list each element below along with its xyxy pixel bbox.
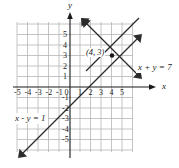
y-tick-neg-4: -4 <box>62 126 69 134</box>
x-tick-3: 3 <box>99 89 103 97</box>
intersection-point-marker <box>110 53 115 58</box>
y-tick-2: 2 <box>63 63 67 71</box>
x-tick-1: 1 <box>78 89 82 97</box>
x-tick-4: 4 <box>110 89 114 97</box>
y-tick-neg-3: -3 <box>62 115 69 123</box>
y-tick-4: 4 <box>63 42 67 50</box>
x-tick-neg-3: -3 <box>35 89 42 97</box>
y-axis-label: y <box>68 1 72 10</box>
intersection-point-label: (4, 3) <box>85 48 105 57</box>
x-tick-2: 2 <box>89 89 93 97</box>
x-tick-neg-2: -2 <box>46 89 53 97</box>
y-tick-3: 3 <box>63 52 67 60</box>
y-tick-1: 1 <box>63 73 67 81</box>
coordinate-graph-figure: y x -5 -4 -3 -2 -1 0 1 2 3 4 5 5 4 3 2 1… <box>0 0 179 168</box>
x-tick-5: 5 <box>120 89 124 97</box>
graph-canvas <box>0 0 179 168</box>
x-tick-neg-4: -4 <box>25 89 32 97</box>
y-tick-neg-5: -5 <box>62 136 69 144</box>
equation-label-x-minus-y: x - y = 1 <box>13 113 48 124</box>
y-tick-5: 5 <box>63 31 67 39</box>
equation-label-x-plus-y: x + y = 7 <box>136 62 174 73</box>
x-axis-label: x <box>162 82 166 91</box>
y-tick-neg-1: -1 <box>62 94 69 102</box>
x-tick-neg-5: -5 <box>14 89 21 97</box>
y-tick-neg-2: -2 <box>62 105 69 113</box>
